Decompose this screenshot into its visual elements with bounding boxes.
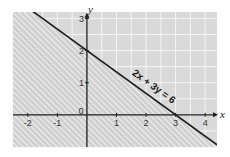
y-tick-label: 1 — [79, 78, 84, 88]
y-axis-label: y — [87, 3, 93, 15]
x-tick-label: 3 — [173, 118, 178, 128]
x-axis-label: x — [219, 108, 225, 120]
x-tick-label: -1 — [53, 118, 61, 128]
x-tick-label: -2 — [24, 118, 32, 128]
x-tick-label: 0 — [78, 106, 83, 116]
x-tick-label: 1 — [114, 118, 119, 128]
y-tick-label: 3 — [79, 14, 84, 24]
y-tick-label: 2 — [79, 46, 84, 56]
chart: -2-101234123 x y 2x + 3y = 6 — [0, 0, 230, 157]
x-tick-label: 2 — [144, 118, 149, 128]
x-tick-label: 4 — [203, 118, 208, 128]
